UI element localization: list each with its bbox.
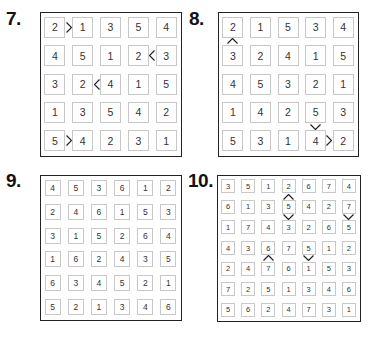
puzzle-cell: 5 — [305, 102, 326, 123]
puzzle-cell: 5 — [241, 179, 255, 193]
puzzle-cell: 2 — [282, 179, 296, 193]
puzzle-cell: 5 — [282, 200, 296, 214]
puzzle-cell: 2 — [261, 303, 275, 317]
puzzle-cell: 4 — [44, 45, 65, 66]
puzzle-cell: 4 — [128, 102, 149, 123]
greater-than-icon — [326, 135, 332, 146]
puzzle-7-grid: 2135445123324151354254231 — [40, 12, 182, 157]
puzzle-cell: 1 — [68, 228, 84, 244]
puzzle-cell: 1 — [250, 17, 271, 38]
puzzle-cell: 6 — [221, 200, 235, 214]
less-than-icon — [94, 79, 100, 90]
puzzle-cell: 2 — [278, 102, 299, 123]
puzzle-cell: 5 — [261, 282, 275, 296]
puzzle-cell: 4 — [222, 74, 243, 95]
up-chevron-icon — [227, 38, 238, 44]
puzzle-cell: 4 — [100, 74, 121, 95]
puzzle-cell: 5 — [333, 45, 354, 66]
puzzle-cell: 3 — [91, 180, 107, 196]
puzzle-cell: 3 — [44, 74, 65, 95]
puzzle-cell: 7 — [282, 241, 296, 255]
puzzle-cell: 4 — [322, 282, 336, 296]
puzzle-cell: 3 — [222, 45, 243, 66]
puzzle-9-label: 9. — [6, 170, 21, 192]
puzzle-cell: 6 — [282, 262, 296, 276]
puzzle-cell: 5 — [100, 102, 121, 123]
puzzle-cell: 1 — [91, 299, 107, 315]
puzzle-cell: 1 — [322, 241, 336, 255]
puzzle-cell: 2 — [305, 74, 326, 95]
puzzle-cell: 1 — [278, 130, 299, 151]
puzzle-cell: 7 — [241, 220, 255, 234]
puzzle-cell: 2 — [72, 74, 93, 95]
puzzle-cell: 6 — [45, 275, 61, 291]
puzzle-cell: 2 — [128, 45, 149, 66]
puzzle-10-grid: 3512674613542717432654367512247615372513… — [217, 175, 361, 322]
up-chevron-icon — [263, 255, 274, 261]
puzzle-cell: 4 — [68, 204, 84, 220]
puzzle-cell: 6 — [114, 180, 130, 196]
puzzle-cell: 4 — [156, 17, 177, 38]
puzzle-cell: 4 — [137, 299, 153, 315]
puzzle-cell: 4 — [261, 220, 275, 234]
puzzle-cell: 6 — [322, 220, 336, 234]
puzzle-cell: 2 — [221, 262, 235, 276]
down-chevron-icon — [310, 124, 321, 130]
down-chevron-icon — [283, 214, 294, 220]
puzzle-cell: 1 — [282, 282, 296, 296]
puzzle-cell: 4 — [333, 17, 354, 38]
puzzle-cell: 3 — [333, 102, 354, 123]
puzzle-cell: 2 — [137, 275, 153, 291]
puzzle-cell: 3 — [261, 200, 275, 214]
puzzle-cell: 1 — [114, 204, 130, 220]
puzzle-cell: 1 — [261, 179, 275, 193]
greater-than-icon — [66, 22, 72, 33]
puzzle-cell: 2 — [68, 299, 84, 315]
puzzle-cell: 5 — [114, 275, 130, 291]
puzzle-cell: 4 — [221, 241, 235, 255]
puzzle-cell: 6 — [91, 204, 107, 220]
puzzle-cell: 3 — [137, 251, 153, 267]
puzzle-cell: 1 — [156, 130, 177, 151]
puzzle-cell: 2 — [250, 45, 271, 66]
puzzle-cell: 2 — [222, 17, 243, 38]
puzzle-cell: 3 — [100, 17, 121, 38]
puzzle-cell: 1 — [302, 262, 316, 276]
puzzle-cell: 2 — [160, 180, 176, 196]
puzzle-cell: 6 — [241, 303, 255, 317]
puzzle-cell: 6 — [68, 251, 84, 267]
puzzle-cell: 3 — [250, 130, 271, 151]
puzzle-cell: 3 — [322, 303, 336, 317]
puzzle-cell: 3 — [128, 130, 149, 151]
puzzle-cell: 3 — [68, 275, 84, 291]
puzzle-cell: 2 — [100, 130, 121, 151]
puzzle-cell: 2 — [91, 251, 107, 267]
puzzle-cell: 5 — [322, 262, 336, 276]
puzzle-cell: 5 — [342, 220, 356, 234]
puzzle-cell: 1 — [160, 275, 176, 291]
puzzle-cell: 3 — [282, 220, 296, 234]
puzzle-cell: 4 — [342, 179, 356, 193]
puzzle-cell: 5 — [160, 251, 176, 267]
puzzle-cell: 3 — [45, 228, 61, 244]
puzzle-cell: 5 — [221, 303, 235, 317]
puzzle-cell: 3 — [72, 102, 93, 123]
puzzle-cell: 1 — [333, 74, 354, 95]
puzzle-cell: 7 — [322, 179, 336, 193]
puzzle-cell: 7 — [302, 303, 316, 317]
puzzle-cell: 4 — [45, 180, 61, 196]
up-chevron-icon — [283, 194, 294, 200]
puzzle-9-grid: 453612246153315264162435634521521346 — [40, 175, 182, 321]
puzzle-cell: 3 — [114, 299, 130, 315]
puzzle-cell: 6 — [342, 282, 356, 296]
puzzle-cell: 4 — [91, 275, 107, 291]
puzzle-cell: 4 — [278, 45, 299, 66]
puzzle-cell: 5 — [137, 204, 153, 220]
puzzle-cell: 1 — [241, 200, 255, 214]
puzzle-cell: 5 — [156, 74, 177, 95]
puzzle-cell: 1 — [342, 303, 356, 317]
puzzle-cell: 1 — [100, 45, 121, 66]
down-chevron-icon — [343, 214, 354, 220]
puzzle-cell: 1 — [305, 45, 326, 66]
puzzle-cell: 6 — [137, 228, 153, 244]
